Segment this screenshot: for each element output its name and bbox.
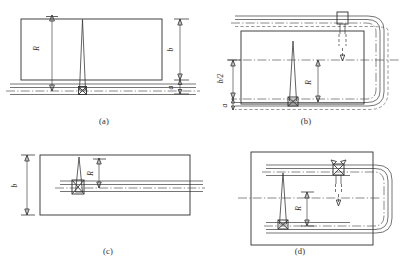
panel-d: R — [230, 140, 405, 250]
dimension-R-c — [93, 158, 106, 188]
substrate-rect-b — [241, 31, 364, 104]
label-R-b: R — [304, 80, 313, 85]
label-R-d: R — [294, 206, 303, 211]
label-a-a: a — [166, 86, 175, 90]
dimension-b2-b — [227, 60, 241, 99]
connector-box-top-d — [331, 160, 346, 206]
panel-c-drawing — [0, 140, 205, 250]
loop-dashed-outline-b — [235, 27, 388, 110]
dimension-a-b — [231, 99, 234, 110]
label-R-c: R — [86, 171, 95, 176]
probe-taper-c — [76, 157, 83, 192]
probe-taper-a — [80, 20, 86, 91]
panel-c: b R — [0, 140, 205, 250]
dimension-b-c — [21, 155, 35, 215]
panel-a-drawing — [0, 0, 203, 120]
connector-box-bottom-d — [278, 220, 288, 229]
figure-panels: R b a (a) — [0, 0, 405, 274]
substrate-rect-a — [21, 19, 162, 80]
dimension-a-a — [174, 80, 189, 94]
substrate-rect-c — [40, 155, 190, 215]
probe-taper-b — [290, 41, 297, 101]
dimension-b-a — [174, 19, 189, 80]
connector-box-bottom-b — [288, 97, 298, 106]
probe-taper-d — [280, 173, 287, 224]
panel-d-drawing — [230, 140, 405, 250]
loop-conductor-outer-b — [235, 16, 384, 106]
panel-b: b/2 a R — [200, 0, 405, 120]
panel-a: R b a — [0, 0, 203, 120]
caption-b: (b) — [286, 116, 326, 126]
caption-a: (a) — [84, 116, 124, 126]
panel-b-drawing — [200, 0, 405, 120]
substrate-rect-d — [251, 152, 373, 245]
label-b2-b: b/2 — [216, 74, 225, 84]
loop-center-line-d — [262, 172, 384, 226]
caption-d: (d) — [280, 246, 320, 256]
dimension-R-d — [301, 192, 314, 226]
label-b-a: b — [166, 48, 175, 52]
loop-center-line-b — [231, 23, 376, 99]
label-b-c: b — [10, 184, 19, 188]
caption-c: (c) — [88, 246, 128, 256]
label-a-b: a — [220, 104, 229, 108]
dimension-R-b — [316, 60, 320, 102]
loop-conductor-inner-b — [235, 20, 380, 103]
label-R-a: R — [32, 46, 41, 51]
